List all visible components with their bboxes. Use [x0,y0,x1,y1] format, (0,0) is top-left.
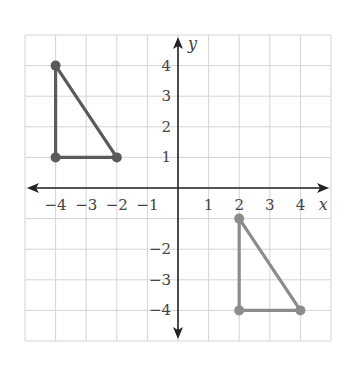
x-tick-label: −2 [106,196,128,214]
x-tick-label: 1 [204,196,214,214]
coordinate-plane: −4−3−2−112344321−2−3−4xy [0,0,346,375]
y-tick-label: −3 [149,271,171,289]
vertex-point [112,152,122,162]
x-tick-label: 2 [234,196,244,214]
y-tick-label: 3 [161,87,171,105]
x-tick-label: 4 [296,196,306,214]
y-tick-label: 4 [161,57,171,75]
x-tick-label: −4 [45,196,67,214]
y-tick-label: 2 [161,118,171,136]
y-tick-label: −2 [149,240,171,258]
vertex-point [234,214,244,224]
y-axis-label: y [187,34,198,53]
x-axis-label: x [319,195,328,214]
x-tick-label: 3 [265,196,275,214]
y-tick-label: −4 [149,301,171,319]
vertex-point [234,305,244,315]
x-tick-label: −1 [136,196,158,214]
y-tick-label: 1 [161,148,171,166]
x-tick-label: −3 [75,196,97,214]
vertex-point [51,152,61,162]
vertex-point [295,305,305,315]
vertex-point [51,61,61,71]
